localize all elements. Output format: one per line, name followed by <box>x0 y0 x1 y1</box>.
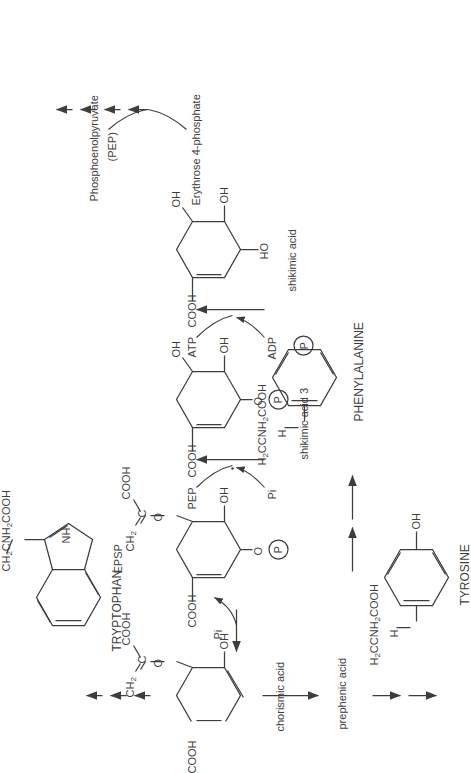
label-nh-tryptophan: NH <box>60 527 71 543</box>
label-oh-epsp: OH <box>218 487 229 504</box>
label-o-epsp: O <box>152 512 163 521</box>
label-phenylalanine: PHENYLALANINE <box>352 322 364 421</box>
label-ch2-chorismic: CH2 <box>124 677 137 697</box>
label-o-chorismic: O <box>152 658 163 667</box>
label-cooh-epsp-enol: COOH <box>120 466 131 499</box>
label-oh-tyrosine: OH <box>410 513 421 530</box>
label-o-epsp-phosphate: O <box>252 546 263 555</box>
label-p-circle-epsp: P <box>272 546 283 553</box>
label-c-epsp: C <box>136 509 147 517</box>
label-sidechain-tyrosine: H2CCNH2COOH <box>368 583 381 665</box>
label-prephenic-acid: prephenic acid <box>336 657 347 729</box>
label-sidechain-tryptophan: CH2CNH2COOH <box>0 489 13 571</box>
label-tryptophan: TRYPTOPHAN <box>110 569 122 651</box>
label-c-chorismic: C <box>136 655 147 663</box>
label-epsp: EPSP <box>112 544 123 573</box>
label-h-tyrosine: H <box>388 629 399 637</box>
label-ch2-epsp: CH2 <box>124 531 137 551</box>
label-h-phenylalanine: H <box>276 429 287 437</box>
label-oh-chorismic: OH <box>218 633 229 650</box>
label-pi-1: Pi <box>266 489 277 499</box>
label-tyrosine: TYROSINE <box>458 544 470 605</box>
label-chorismic-acid: chorismic acid <box>274 661 285 731</box>
label-cooh-epsp: COOH <box>186 594 197 627</box>
label-cooh-chorismic: COOH <box>186 740 197 773</box>
label-pep-cofactor: PEP <box>186 487 197 509</box>
label-sidechain-phenylalanine: H2CCNH2COOH <box>256 383 269 465</box>
